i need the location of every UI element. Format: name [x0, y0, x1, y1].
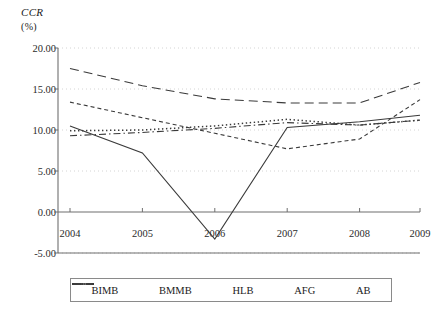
legend-item-bimb[interactable]: BIMB [91, 285, 118, 296]
plot-area [0, 0, 433, 313]
legend-item-ab[interactable]: AB [356, 285, 371, 296]
legend-swatch-ab [71, 279, 95, 289]
legend-label: HLB [232, 285, 253, 296]
series-line-bmmb [70, 100, 420, 149]
legend-label: BMMB [159, 285, 192, 296]
legend-item-afg[interactable]: AFG [294, 285, 315, 296]
series-line-hlb [70, 69, 420, 103]
legend-label: AB [356, 285, 371, 296]
legend-item-bmmb[interactable]: BMMB [159, 285, 192, 296]
chart-root: CCR (%) 20.0015.0010.005.000.00-5.00 200… [0, 0, 433, 313]
chart-legend: BIMBBMMBHLBAFGAB [70, 278, 392, 302]
legend-label: AFG [294, 285, 315, 296]
legend-item-hlb[interactable]: HLB [232, 285, 253, 296]
legend-label: BIMB [91, 285, 118, 296]
